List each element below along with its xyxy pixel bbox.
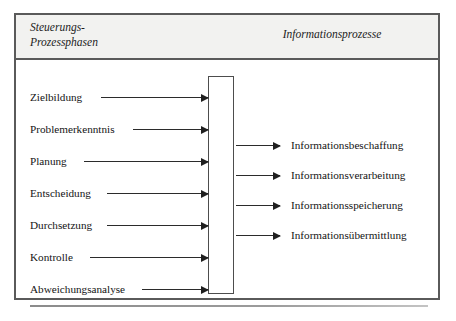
- phase-row: Zielbildung: [16, 89, 236, 105]
- phase-arrow-icon: [142, 289, 208, 290]
- phase-row: Planung: [16, 153, 236, 169]
- phase-arrow-icon: [107, 193, 208, 194]
- phase-arrow-icon: [90, 257, 208, 258]
- diagram-frame: Steuerungs- Prozessphasen Informationspr…: [14, 13, 440, 300]
- phase-row: Kontrolle: [16, 249, 236, 265]
- information-process-row: Informationsübermittlung: [234, 227, 442, 243]
- information-process-label: Informationsübermittlung: [291, 227, 407, 243]
- information-process-row: Informationsbeschaffung: [234, 137, 442, 153]
- phase-row: Entscheidung: [16, 185, 236, 201]
- phase-row: Problemerkenntnis: [16, 121, 236, 137]
- phase-arrow-icon: [101, 97, 208, 98]
- info-arrow-icon: [236, 235, 280, 236]
- diagram-body: Zielbildung Problemerkenntnis Planung En…: [16, 60, 438, 300]
- information-process-row: Informationsverarbeitung: [234, 167, 442, 183]
- phase-row: Durchsetzung: [16, 217, 236, 233]
- phase-label: Planung: [30, 153, 67, 169]
- phase-label: Zielbildung: [30, 89, 82, 105]
- phase-label: Abweichungsanalyse: [30, 281, 125, 297]
- caption-remnant: [30, 305, 428, 307]
- info-arrow-icon: [236, 145, 280, 146]
- information-process-row: Informationsspeicherung: [234, 197, 442, 213]
- information-process-label: Informationsverarbeitung: [291, 167, 405, 183]
- info-arrow-icon: [236, 175, 280, 176]
- phase-arrow-icon: [107, 225, 208, 226]
- diagram-header: Steuerungs- Prozessphasen Informationspr…: [16, 15, 438, 60]
- header-right-title: Informationsprozesse: [226, 28, 438, 40]
- information-process-label: Informationsbeschaffung: [291, 137, 403, 153]
- phase-row: Abweichungsanalyse: [16, 281, 236, 297]
- phase-label: Kontrolle: [30, 249, 73, 265]
- info-arrow-icon: [236, 205, 280, 206]
- phase-arrow-icon: [84, 161, 208, 162]
- header-left-title: Steuerungs- Prozessphasen: [30, 20, 98, 50]
- phase-label: Durchsetzung: [30, 217, 92, 233]
- phase-label: Problemerkenntnis: [30, 121, 115, 137]
- phase-arrow-icon: [133, 129, 208, 130]
- information-process-label: Informationsspeicherung: [291, 197, 403, 213]
- phase-label: Entscheidung: [30, 185, 91, 201]
